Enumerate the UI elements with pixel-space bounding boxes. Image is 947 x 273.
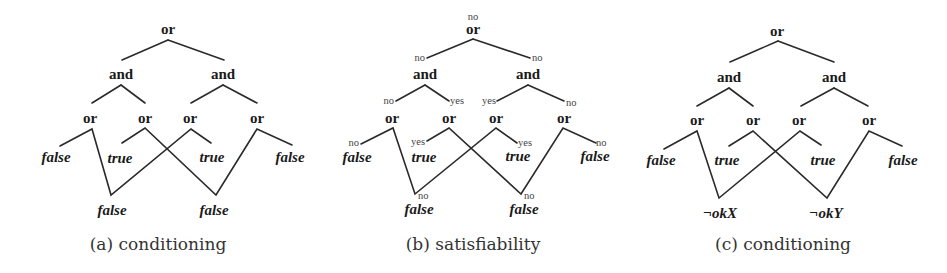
leaf-2: true [107,150,132,166]
annotation-leaf-4: no [596,137,607,148]
or-node-2: or [138,110,153,126]
or-node-3: or [183,110,198,126]
or-node-3: or [489,110,504,126]
root-or-node: or [161,21,176,37]
and-node-left: and [109,66,134,82]
leaf-3: true [505,148,530,164]
shared-leaf-1: false [404,201,434,217]
leaf-4: false [275,149,305,165]
leaf-1: false [342,149,372,165]
caption-b: (b) satisfiability [406,234,541,254]
leaf-4: false [580,148,610,164]
leaf-2: true [714,152,739,168]
leaf-3: true [810,152,835,168]
or-node-1: or [690,112,705,128]
annotation-shared-1: no [418,190,429,201]
panel-c-conditioning: or and and or or or or false true true f… [646,23,918,254]
or-node-4: or [862,112,877,128]
leaf-1: false [41,149,71,165]
annotation-or-1: no [384,95,395,106]
annotation-or-3: yes [482,95,496,106]
or-node-2: or [746,112,761,128]
leaf-2: true [411,149,436,165]
and-node-right: and [211,66,236,82]
shared-leaf-not-ok-x: ¬okX [703,205,738,221]
root-or-node: or [466,21,481,37]
or-node-4: or [250,110,265,126]
annotation-leaf-1: no [349,137,360,148]
or-node-1: or [385,110,400,126]
leaf-3: true [199,149,224,165]
annotation-or-4: no [566,97,577,108]
annotation-leaf-2: yes [411,136,425,147]
shared-leaf-1: false [97,202,127,218]
and-node-left: and [717,69,742,85]
caption-a: (a) conditioning [90,234,227,254]
and-node-right: and [822,69,847,85]
nnf-circuit-figure: or and and or or or or false true true f… [0,0,947,273]
leaf-1: false [646,152,676,168]
and-node-left: and [413,66,438,82]
and-node-right: and [516,66,541,82]
annotation-and-left: no [415,52,426,63]
shared-leaf-2: false [509,201,539,217]
shared-leaf-2: false [199,202,229,218]
shared-leaf-not-ok-y: ¬okY [809,205,844,221]
root-or-node: or [770,23,785,39]
or-node-1: or [83,110,98,126]
annotation-and-right: no [532,52,543,63]
caption-c: (c) conditioning [715,234,851,254]
annotation-leaf-3: yes [518,137,532,148]
panel-a-conditioning: or and and or or or or false true true f… [41,21,305,254]
annotation-shared-2: no [524,190,535,201]
annotation-or-2: yes [450,95,464,106]
leaf-4: false [888,152,918,168]
panel-b-satisfiability: no or no no and and no yes yes no or or … [342,11,610,254]
or-node-2: or [442,110,457,126]
or-node-4: or [557,110,572,126]
or-node-3: or [792,112,807,128]
